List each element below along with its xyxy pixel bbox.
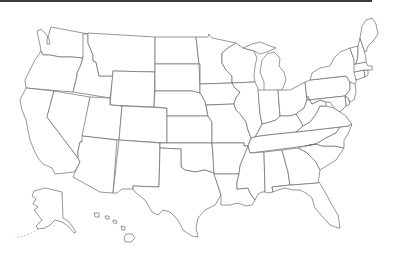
state-WY[interactable] bbox=[110, 71, 155, 107]
state-KS[interactable] bbox=[167, 116, 212, 143]
state-MT[interactable] bbox=[88, 33, 155, 76]
state-WA[interactable] bbox=[37, 27, 88, 58]
us-map: United States blank outline map bbox=[0, 0, 398, 255]
state-AZ[interactable] bbox=[73, 136, 117, 193]
state-HI[interactable] bbox=[94, 213, 135, 242]
state-CO[interactable] bbox=[119, 106, 167, 143]
state-FL[interactable] bbox=[272, 182, 340, 228]
us-map-svg bbox=[0, 0, 398, 255]
state-ME[interactable] bbox=[360, 18, 378, 52]
state-AK[interactable] bbox=[32, 188, 76, 233]
state-SD[interactable] bbox=[155, 64, 200, 93]
state-RI[interactable] bbox=[364, 70, 368, 77]
state-ND[interactable] bbox=[155, 37, 199, 64]
aleutian-islands bbox=[15, 229, 38, 238]
state-NM[interactable] bbox=[113, 140, 160, 193]
